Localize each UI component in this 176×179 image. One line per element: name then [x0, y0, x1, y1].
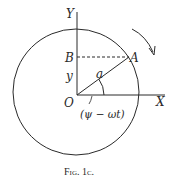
- x-axis-label: X: [155, 95, 165, 109]
- radius-label: a: [96, 67, 103, 81]
- angle-label: (ψ − ωt): [80, 108, 125, 120]
- y-length-label: y: [65, 69, 73, 83]
- reference-circle: [13, 29, 139, 155]
- origin-label: O: [64, 96, 74, 110]
- diagram-canvas: Y X O A B y a (ψ − ωt) Fig. 1c.: [0, 0, 176, 179]
- figure-1c: Y X O A B y a (ψ − ωt) Fig. 1c.: [0, 0, 176, 179]
- point-b-label: B: [64, 51, 74, 65]
- point-a-label: A: [129, 51, 139, 65]
- figure-caption: Fig. 1c.: [64, 166, 94, 177]
- angle-leader-line: [89, 96, 92, 104]
- angle-arc: [99, 79, 104, 95]
- y-axis-label: Y: [66, 7, 75, 21]
